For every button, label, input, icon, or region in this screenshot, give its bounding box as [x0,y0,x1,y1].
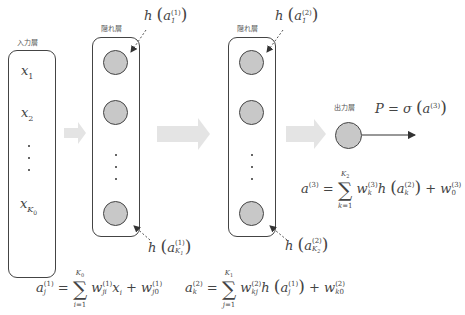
annotation-h2-bottom: h (a(2)K2) [285,234,328,256]
equation-a3: a(3) = K2∑k=1 w(3)kh (a(2)k) + w(3)0 [301,167,461,211]
flow-arrow-icon [64,118,326,150]
annotation-output: P = σ (a(3)) [375,97,447,117]
equation-a1: a(1)j = K0∑i=1 w(1)jixi + w(1)j0 [36,266,162,310]
equation-a2: a(2)k = K1∑j=1 w(2)kjh (a(1)j) + w(2)k0 [185,266,345,310]
annotation-h1-top: h (a(1)1) [144,4,187,25]
annotation-h1-bottom: h (a(1)K1) [148,236,191,258]
annotation-h2-top: h (a(2)1) [275,4,318,25]
